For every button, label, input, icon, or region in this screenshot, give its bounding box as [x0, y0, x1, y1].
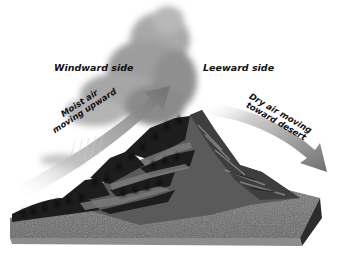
rain-shadow-diagram: Windward side Leeward side Moist air mov…	[0, 0, 339, 259]
leeward-side-label: Leeward side	[203, 63, 274, 73]
windward-side-label: Windward side	[54, 63, 133, 73]
